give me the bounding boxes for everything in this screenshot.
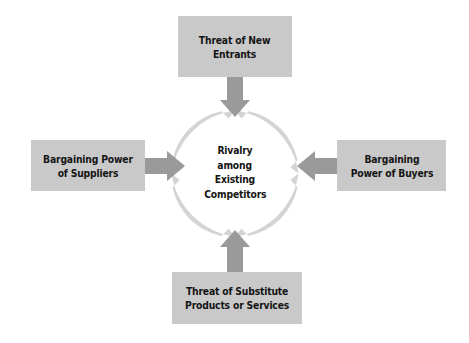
center-label: Rivalry among Existing Competitors xyxy=(188,131,282,213)
force-label-bargaining-power-of-suppliers: Bargaining Power of Suppliers xyxy=(43,152,133,180)
arrow-left-right xyxy=(145,151,185,181)
center-line-2: among xyxy=(218,158,253,173)
arrow-right-left xyxy=(297,151,337,181)
force-box-threat-of-substitute-products-or-services: Threat of Substitute Products or Service… xyxy=(172,272,302,324)
arrow-top-down xyxy=(220,77,250,117)
force-box-bargaining-power-of-suppliers: Bargaining Power of Suppliers xyxy=(31,140,145,191)
porters-five-forces-diagram: Rivalry among Existing Competitors Threa… xyxy=(0,0,469,343)
force-label-threat-of-new-entrants: Threat of New Entrants xyxy=(199,33,270,61)
force-box-threat-of-new-entrants: Threat of New Entrants xyxy=(178,16,292,77)
force-box-bargaining-power-of-buyers: Bargaining Power of Buyers xyxy=(337,140,446,191)
center-line-1: Rivalry xyxy=(217,143,252,158)
center-line-4: Competitors xyxy=(204,187,266,202)
force-label-threat-of-substitute-products-or-services: Threat of Substitute Products or Service… xyxy=(185,284,289,312)
center-line-3: Existing xyxy=(215,172,255,187)
arrow-bottom-up xyxy=(220,230,250,272)
force-label-bargaining-power-of-buyers: Bargaining Power of Buyers xyxy=(350,152,433,180)
